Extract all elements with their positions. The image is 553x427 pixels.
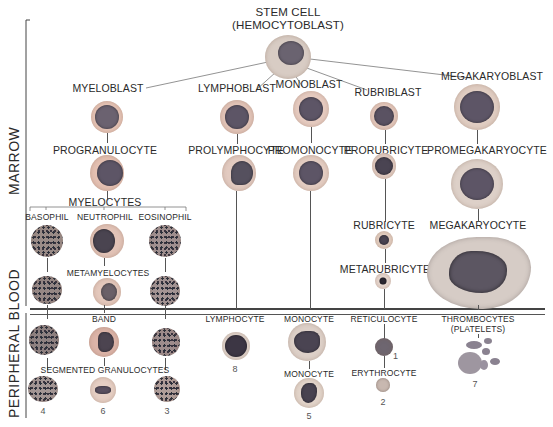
eosinophil-label: EOSINOPHIL [139,212,192,222]
promonocyte-cell [293,155,329,191]
marrow-label: MARROW [6,127,22,195]
neutrophil-myelocyte [90,224,124,258]
myeloblast-label: MYELOBLAST [72,82,143,94]
monocyte-number: 5 [306,411,311,421]
thrombocytes-label: THROMBOCYTES [442,314,515,324]
basophil-segmented [28,376,58,402]
rubriblast-cell [370,102,398,130]
stem-cell [265,35,311,79]
neutrophil-metamyelocyte [93,278,121,306]
basophil-myelocyte [31,225,63,257]
promegakaryocyte-label: PROMEGAKARYOCYTE [427,144,547,156]
prorubricyte-cell [372,153,396,179]
eosinophil-myelocyte [149,225,181,257]
platelets-cluster [456,338,506,378]
reticulocyte-number: 1 [393,351,398,361]
monoblast-cell [293,91,329,127]
myelocytes-label: MYELOCYTES [69,196,142,208]
segmented-granulocytes-label: SEGMENTED GRANULOCYTES [41,365,170,375]
erythrocyte-number: 2 [380,397,385,407]
basophil-label: BASOPHIL [25,212,68,222]
peripheral-blood-label: PERIPHERAL BLOOD [6,269,22,418]
lymphoblast-label: LYMPHOBLAST [198,82,276,94]
eosinophil-number: 3 [164,406,169,416]
stem-cell-title: STEM CELL [256,6,321,18]
myeloblast-cell [91,101,123,133]
lymphocyte-number: 8 [232,364,237,374]
eosinophil-metamyelocyte [150,276,180,306]
metarubricyte-cell [375,273,391,289]
band-label: BAND [92,314,116,324]
neutrophil-label: NEUTROPHIL [77,212,133,222]
metamyelocytes-label: METAMYELOCYTES [67,268,149,278]
erythrocyte-cell [376,378,390,392]
lymphocyte-cell [222,332,250,360]
lymphocyte-label: LYMPHOCYTE [206,314,265,324]
megakaryocyte-label: MEGAKARYOCYTE [430,219,527,231]
basophil-metamyelocyte [32,276,62,304]
prolymphocyte-cell [222,155,256,191]
neutrophil-segmented [90,377,116,403]
lymphoblast-cell [220,100,254,134]
megakaryoblast-cell [454,84,500,130]
basophil-number: 4 [40,406,45,416]
progranulocyte-cell [90,155,124,191]
platelets-number: 7 [472,379,477,389]
rubricyte-cell [375,231,393,249]
rubricyte-label: RUBRICYTE [353,219,415,231]
monoblast-label: MONOBLAST [276,78,343,90]
erythrocyte-label: ERYTHROCYTE [351,368,416,378]
promegakaryocyte-cell [451,159,503,209]
basophil-band [29,325,59,355]
stem-cell-subtitle: (HEMOCYTOBLAST) [232,19,344,31]
monocyte-cell-1 [288,323,326,361]
neutrophil-band [89,327,119,357]
neutrophil-number: 6 [100,406,105,416]
reticulocyte-cell [375,338,393,356]
monocyte-cell-2 [294,378,324,408]
eosinophil-band [152,328,180,356]
platelets-label: (PLATELETS) [451,324,505,334]
reticulocyte-label: RETICULOCYTE [351,314,418,324]
rubriblast-label: RUBRIBLAST [355,86,422,98]
eosinophil-segmented [154,376,180,402]
megakaryoblast-label: MEGAKARYOBLAST [441,70,543,82]
